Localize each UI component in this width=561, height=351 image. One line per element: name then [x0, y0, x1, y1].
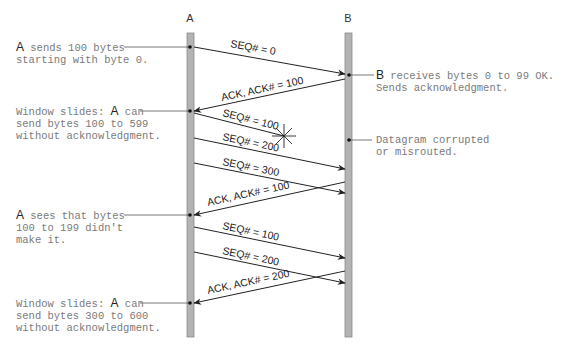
note-window-slides-1: Window slides: A can send bytes 100 to 5… [16, 105, 161, 142]
host-b-label: B [344, 12, 351, 24]
note-datagram-corrupted: Datagram corrupted or misrouted. [376, 134, 489, 158]
note-text: Window slides: [16, 106, 111, 118]
note-text: sees that bytes 100 to 199 didn't make i… [16, 210, 125, 246]
note-text: receives bytes 0 to 99 OK. Sends acknowl… [376, 70, 554, 94]
event-dot [188, 213, 192, 217]
event-dot [188, 301, 192, 305]
host-ref: B [376, 68, 384, 82]
event-dot [188, 45, 192, 49]
note-b-receives: B receives bytes 0 to 99 OK. Sends ackno… [376, 69, 554, 94]
note-a-sends: A sends 100 bytes starting with byte 0. [16, 41, 148, 66]
message-ack-100-dup: ACK, ACK# = 100 [194, 178, 345, 215]
host-ref: A [16, 40, 24, 54]
host-ref: A [16, 208, 24, 222]
message-ack-100: ACK, ACK# = 100 [194, 74, 345, 111]
event-dot [347, 73, 351, 77]
lifeline-b [345, 33, 352, 337]
host-a-label: A [186, 12, 194, 24]
message-label: ACK, ACK# = 100 [220, 74, 305, 103]
event-dot [347, 138, 351, 142]
host-ref: A [111, 104, 119, 118]
note-text: sends 100 bytes starting with byte 0. [16, 42, 148, 66]
event-dot [188, 109, 192, 113]
note-text: Datagram corrupted or misrouted. [376, 134, 489, 158]
host-ref: A [111, 296, 119, 310]
message-seq-200: SEQ# = 200 [194, 130, 345, 169]
message-seq-0: SEQ# = 0 [194, 37, 345, 74]
note-window-slides-2: Window slides: A can send bytes 300 to 6… [16, 297, 161, 334]
note-a-sees-loss: A sees that bytes 100 to 199 didn't make… [16, 209, 125, 246]
lifeline-a [187, 33, 194, 337]
note-text: Window slides: [16, 298, 111, 310]
message-seq-100-retransmit: SEQ# = 100 [194, 219, 345, 258]
message-ack-200: ACK, ACK# = 200 [194, 267, 345, 303]
message-label: SEQ# = 0 [230, 37, 277, 57]
